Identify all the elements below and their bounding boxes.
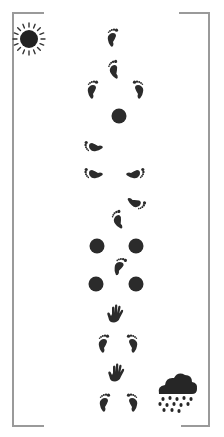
right-footprint-icon [124, 334, 140, 354]
right-footprint-icon [124, 393, 140, 413]
handprint-icon [107, 363, 127, 383]
dot-icon [128, 276, 144, 292]
right-footprint-icon [123, 190, 148, 214]
left-footprint-icon [105, 28, 121, 48]
left-footprint-icon [104, 58, 126, 82]
dot-icon [88, 276, 104, 292]
frame-right-line [208, 12, 210, 427]
frame-bottom-right-line [181, 425, 210, 427]
sun-icon [12, 22, 46, 56]
frame-left-line [12, 12, 14, 427]
left-footprint-icon [84, 165, 104, 181]
left-footprint-icon [85, 80, 101, 100]
dot-icon [128, 238, 144, 254]
left-footprint-icon [84, 138, 104, 154]
right-footprint-icon [130, 80, 146, 100]
left-footprint-icon [96, 334, 112, 354]
frame-top-left-line [12, 12, 44, 14]
dot-icon [89, 238, 105, 254]
left-footprint-icon [108, 208, 131, 233]
right-footprint-icon [125, 165, 145, 181]
frame-bottom-left-line [12, 425, 44, 427]
dot-icon [111, 108, 127, 124]
handprint-icon [106, 304, 126, 324]
frame-top-right-line [179, 12, 210, 14]
left-footprint-icon [97, 393, 113, 413]
rain-cloud-icon [155, 368, 199, 414]
